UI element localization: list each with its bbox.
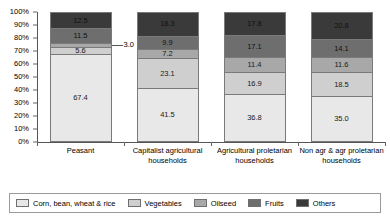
x-axis-category-label: Non agr & agr proletarian households — [298, 146, 385, 165]
legend-item[interactable]: Corn, bean, wheat & rice — [16, 199, 116, 208]
segment-value-label: 67.4 — [73, 94, 88, 102]
legend-label: Oilseed — [211, 199, 236, 208]
legend-swatch-icon — [296, 199, 309, 207]
callout-leader-line — [112, 45, 123, 46]
legend-swatch-icon — [128, 199, 141, 207]
y-axis-tick-label: 10% — [14, 125, 29, 133]
bar-slot: 17.817.111.416.936.8 — [211, 12, 298, 142]
y-axis-tick-label: 60% — [14, 60, 29, 68]
legend-item[interactable]: Vegetables — [128, 199, 182, 208]
segment-value-label: 17.1 — [247, 43, 262, 51]
bar-segment[interactable]: 18.3 — [137, 12, 199, 36]
category-labels: PeasantCapitalist agricultural household… — [37, 146, 385, 186]
y-axis-tick-mark — [33, 38, 37, 39]
bar-segment[interactable]: 36.8 — [224, 94, 286, 142]
segment-value-label: 20.8 — [334, 22, 349, 30]
bar-segment[interactable]: 67.4 — [50, 54, 112, 142]
bars-container: 12.511.55.667.418.39.97.223.141.517.817.… — [37, 12, 385, 142]
bar-segment[interactable]: 7.2 — [137, 49, 199, 58]
segment-value-label: 16.9 — [247, 80, 262, 88]
y-axis-tick-mark — [33, 51, 37, 52]
legend-swatch-icon — [248, 199, 261, 207]
segment-value-label: 14.1 — [334, 45, 349, 53]
segment-value-label: 7.2 — [162, 50, 172, 58]
y-axis-tick-label: 90% — [14, 21, 29, 29]
y-axis-tick-mark — [33, 77, 37, 78]
y-axis-tick-label: 50% — [14, 73, 29, 81]
segment-value-label: 17.8 — [247, 20, 262, 28]
x-axis-category-label: Peasant — [37, 146, 124, 156]
y-axis-tick-label: 80% — [14, 34, 29, 42]
legend-item[interactable]: Oilseed — [194, 199, 236, 208]
legend-label: Vegetables — [145, 199, 182, 208]
y-axis-tick-label: 30% — [14, 99, 29, 107]
y-axis-tick-label: 70% — [14, 47, 29, 55]
bar-segment[interactable]: 11.5 — [50, 28, 112, 43]
legend-item[interactable]: Others — [296, 199, 336, 208]
chart-legend: Corn, bean, wheat & riceVegetablesOilsee… — [9, 193, 381, 213]
y-axis-tick-label: 0% — [18, 138, 29, 146]
x-axis-category-label: Capitalist agricultural households — [124, 146, 211, 165]
bar-segment[interactable]: 20.8 — [311, 12, 373, 39]
bar-segment[interactable]: 11.4 — [224, 57, 286, 72]
bar-slot: 20.814.111.618.535.0 — [298, 12, 385, 142]
segment-value-label: 36.8 — [247, 114, 262, 122]
x-axis-tick-mark — [385, 142, 386, 146]
segment-value-label: 11.6 — [334, 61, 348, 69]
bar-segment[interactable]: 41.5 — [137, 88, 199, 142]
segment-value-label: 18.3 — [160, 20, 175, 28]
bar-segment[interactable]: 35.0 — [311, 96, 373, 142]
legend-swatch-icon — [194, 199, 207, 207]
y-axis-tick-mark — [33, 64, 37, 65]
bar-segment[interactable]: 16.9 — [224, 72, 286, 94]
stacked-bar-chart: 100%90%80%70%60%50%40%30%20%10%0% 12.511… — [0, 0, 390, 222]
bar-slot: 18.39.97.223.141.5 — [124, 12, 211, 142]
segment-value-label: 41.5 — [160, 111, 175, 119]
bar-segment[interactable]: 5.6 — [50, 47, 112, 54]
y-axis-tick-label: 100% — [10, 8, 29, 16]
bar-slot: 12.511.55.667.4 — [37, 12, 124, 142]
bar-segment[interactable]: 17.1 — [224, 35, 286, 57]
legend-swatch-icon — [16, 199, 29, 207]
bar-segment[interactable]: 11.6 — [311, 57, 373, 72]
bar-segment[interactable]: 23.1 — [137, 58, 199, 88]
stacked-bar[interactable]: 12.511.55.667.4 — [50, 12, 112, 142]
stacked-bar[interactable]: 17.817.111.416.936.8 — [224, 12, 286, 142]
bar-segment[interactable]: 14.1 — [311, 39, 373, 57]
plot-area: 100%90%80%70%60%50%40%30%20%10%0% 12.511… — [0, 6, 390, 148]
segment-value-label: 11.4 — [247, 61, 261, 69]
bar-segment[interactable]: 18.5 — [311, 72, 373, 96]
y-axis-tick-label: 40% — [14, 86, 29, 94]
bar-segment[interactable]: 12.5 — [50, 12, 112, 28]
bar-segment[interactable]: 17.8 — [224, 12, 286, 35]
segment-value-label: 5.6 — [75, 47, 85, 54]
segment-value-label: 12.5 — [73, 17, 88, 25]
legend-item[interactable]: Fruits — [248, 199, 284, 208]
y-axis-tick-mark — [33, 12, 37, 13]
segment-value-label: 11.5 — [73, 32, 87, 40]
y-axis-tick-mark — [33, 116, 37, 117]
x-axis-category-label: Agricultural proletarian households — [211, 146, 298, 165]
segment-value-label: 18.5 — [334, 81, 349, 89]
stacked-bar[interactable]: 20.814.111.618.535.0 — [311, 12, 373, 142]
y-axis-tick-mark — [33, 103, 37, 104]
legend-label: Others — [313, 199, 336, 208]
legend-label: Fruits — [265, 199, 284, 208]
y-axis: 100%90%80%70%60%50%40%30%20%10%0% — [0, 6, 33, 142]
stacked-bar[interactable]: 18.39.97.223.141.5 — [137, 12, 199, 142]
y-axis-tick-mark — [33, 90, 37, 91]
y-axis-tick-label: 20% — [14, 112, 29, 120]
callout-value-label: 3.0 — [124, 41, 134, 49]
y-axis-tick-mark — [33, 25, 37, 26]
segment-value-label: 9.9 — [162, 39, 172, 47]
legend-label: Corn, bean, wheat & rice — [33, 199, 116, 208]
segment-value-label: 23.1 — [160, 70, 175, 78]
bar-segment[interactable]: 9.9 — [137, 36, 199, 49]
segment-value-label: 35.0 — [334, 115, 349, 123]
y-axis-tick-mark — [33, 129, 37, 130]
